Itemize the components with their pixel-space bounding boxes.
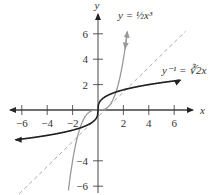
graph-canvas: −6−4−2246642−4−6xyy = ½x³y⁻¹ = ∛2x bbox=[0, 0, 211, 195]
x-tick-label: 2 bbox=[121, 117, 127, 129]
inverse-label: y⁻¹ = ∛2x bbox=[161, 63, 207, 76]
line-y-equals-x bbox=[19, 31, 185, 194]
y-tick-label: 2 bbox=[83, 79, 89, 91]
curves bbox=[16, 31, 186, 194]
x-tick-label: 6 bbox=[171, 117, 177, 129]
x-tick-label: −2 bbox=[67, 117, 79, 129]
x-tick-label: −4 bbox=[41, 117, 53, 129]
y-axis-label: y bbox=[94, 0, 100, 11]
x-tick-label: −6 bbox=[16, 117, 28, 129]
axes bbox=[10, 14, 193, 193]
x-tick-label: 4 bbox=[146, 117, 152, 129]
y-tick-label: −6 bbox=[76, 180, 88, 192]
y-tick-label: −4 bbox=[76, 155, 88, 167]
x-axis-label: x bbox=[199, 104, 205, 116]
labels: −6−4−2246642−4−6xyy = ½x³y⁻¹ = ∛2x bbox=[16, 0, 207, 192]
cubic-label: y = ½x³ bbox=[117, 9, 153, 21]
y-tick-label: 6 bbox=[83, 28, 89, 40]
y-tick-label: 4 bbox=[83, 53, 89, 65]
